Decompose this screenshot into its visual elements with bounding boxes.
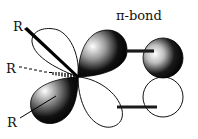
upper-right-p-lobe	[78, 30, 127, 77]
r-label-top: R	[13, 19, 24, 34]
r-label-bottom: R	[7, 115, 18, 130]
pi-bond-diagram: π-bond R R R	[0, 0, 198, 139]
upper-partner-orbital	[143, 38, 183, 78]
r-label-middle: R	[6, 61, 17, 76]
pi-bond-title: π-bond	[116, 8, 162, 23]
lower-partner-orbital	[143, 77, 183, 117]
lower-left-p-lobe	[31, 77, 78, 124]
lower-right-p-lobe	[78, 77, 122, 127]
